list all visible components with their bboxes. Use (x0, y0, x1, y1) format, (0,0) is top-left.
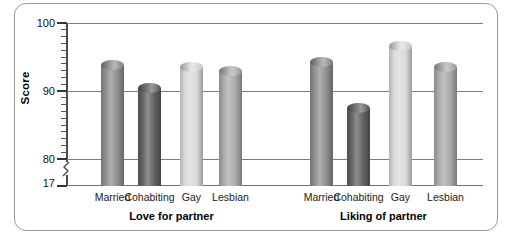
y-tick-label-100: 100 (37, 18, 55, 29)
chart-figure-frame: Score 100 90 80 17 MarriedCohabitingGayL… (14, 3, 498, 231)
bar-cap (434, 62, 457, 72)
bar-cap (138, 83, 161, 93)
group-label-love-for-partner: Love for partner (92, 211, 252, 222)
gridline-100 (67, 23, 483, 24)
y-tick-major-17 (57, 185, 67, 187)
bar-body (138, 88, 161, 186)
y-tick-major-90 (57, 90, 67, 92)
y-tick-label-80: 80 (43, 154, 55, 165)
y-tick-major-80 (57, 158, 67, 160)
bar-liking-of-partner-married (310, 57, 333, 186)
y-tick-major-100 (57, 22, 67, 24)
group-label-liking-of-partner: Liking of partner (304, 211, 464, 222)
y-tick-label-17: 17 (43, 178, 55, 189)
bar-love-for-partner-married (101, 60, 124, 186)
bar-body (180, 67, 203, 186)
bar-love-for-partner-cohabiting (138, 83, 161, 186)
bar-body (310, 62, 333, 186)
bar-love-for-partner-lesbian (219, 66, 242, 186)
x-tick-label-lesbian: Lesbian (406, 192, 486, 203)
gridline-80 (67, 159, 483, 160)
bar-liking-of-partner-lesbian (434, 62, 457, 186)
bar-body (101, 65, 124, 186)
y-tick-label-90: 90 (43, 86, 55, 97)
bar-cap (310, 57, 333, 67)
bar-cap (219, 66, 242, 76)
bar-body (389, 46, 412, 186)
y-axis-tick-labels: 100 90 80 17 (15, 4, 55, 204)
bar-liking-of-partner-cohabiting (347, 103, 370, 186)
gridline-90 (67, 91, 483, 92)
x-axis-baseline (67, 185, 483, 186)
bar-body (219, 71, 242, 186)
bar-liking-of-partner-gay (389, 41, 412, 186)
bar-love-for-partner-gay (180, 62, 203, 186)
bar-body (434, 67, 457, 186)
plot-area (67, 23, 483, 186)
bar-cap (180, 62, 203, 72)
bar-body (347, 108, 370, 186)
x-tick-label-lesbian: Lesbian (191, 192, 271, 203)
